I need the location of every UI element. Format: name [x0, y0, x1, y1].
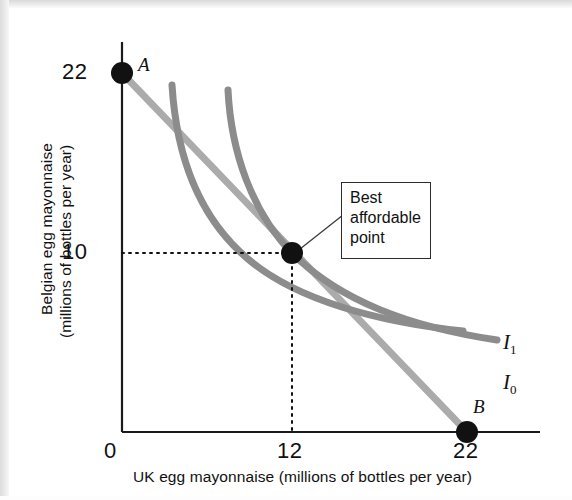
callout-line-2: affordable [350, 208, 423, 228]
axis-lines [122, 42, 540, 432]
point-marker-best-affordable [281, 242, 303, 264]
figure-canvas: 22 10 0 12 22 UK egg mayonnaise (million… [0, 0, 572, 500]
y-tick-22: 22 [62, 59, 87, 85]
y-axis-title-line2: (millions of bottles per year) [57, 145, 74, 338]
curve-label-i0: I0 [503, 370, 517, 398]
x-tick-22: 22 [453, 438, 478, 464]
x-tick-0: 0 [104, 438, 117, 464]
curve-label-i0-letter: I [503, 370, 510, 394]
x-axis-title: UK egg mayonnaise (millions of bottles p… [133, 468, 472, 486]
curve-label-i1: I1 [503, 330, 517, 358]
point-label-a: A [138, 54, 150, 76]
curve-label-i1-letter: I [503, 330, 510, 354]
x-tick-12: 12 [277, 438, 302, 464]
curve-label-i0-subscript: 0 [510, 382, 517, 397]
callout-line-1: Best [350, 188, 423, 208]
point-label-b: B [473, 396, 485, 418]
point-marker-a [111, 62, 133, 84]
callout-line-3: point [350, 228, 423, 248]
curve-label-i1-subscript: 1 [510, 342, 517, 357]
y-axis-title-line1-wrap: Belgian egg mayonnaise [38, 143, 56, 315]
y-axis-title-line2-wrap: (millions of bottles per year) [57, 145, 75, 338]
best-affordable-point-callout: Best affordable point [341, 182, 431, 259]
callout-leader-line [300, 215, 343, 249]
y-axis-title-line1: Belgian egg mayonnaise [38, 143, 55, 315]
